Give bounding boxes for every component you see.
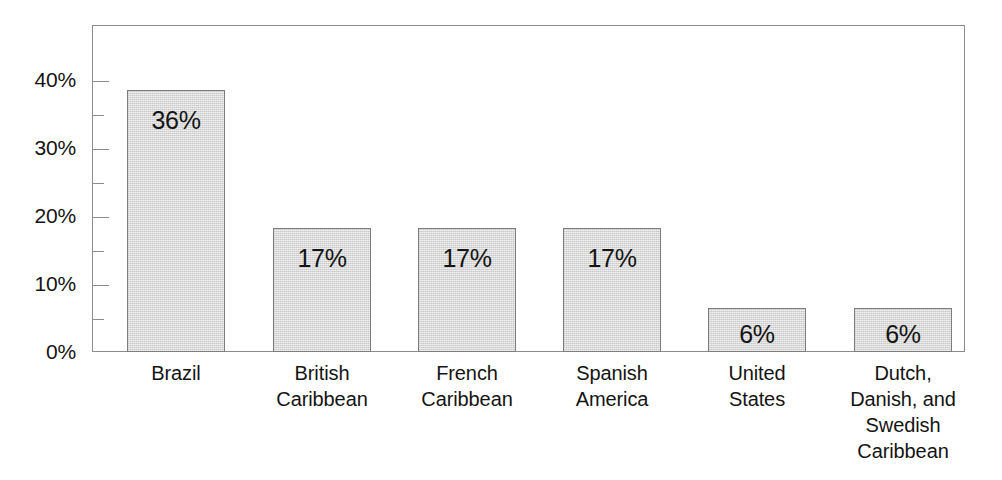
y-axis-tick-label: 20% bbox=[20, 205, 76, 226]
category-label-line: Swedish bbox=[828, 412, 978, 438]
y-axis-tick-label: 40% bbox=[20, 69, 76, 90]
x-axis-category-label: BritishCaribbean bbox=[247, 360, 397, 412]
category-label-line: Brazil bbox=[101, 360, 251, 386]
bar-value-label: 36% bbox=[127, 108, 225, 133]
x-axis-category-label: SpanishAmerica bbox=[537, 360, 687, 412]
y-axis-tick-label: 30% bbox=[20, 137, 76, 158]
x-axis-category-label: Brazil bbox=[101, 360, 251, 386]
bars-layer: 36%17%17%17%6%6% bbox=[92, 25, 965, 352]
category-label-line: Danish, and bbox=[828, 386, 978, 412]
category-label-line: British bbox=[247, 360, 397, 386]
y-axis-tick-label: 0% bbox=[20, 341, 76, 362]
category-label-line: French bbox=[392, 360, 542, 386]
y-axis-tick-label: 10% bbox=[20, 273, 76, 294]
category-label-line: Caribbean bbox=[828, 438, 978, 464]
bar-value-label: 17% bbox=[273, 246, 371, 271]
bar-value-label: 6% bbox=[854, 322, 952, 347]
bar-chart: 0%10%20%30%40% 36%17%17%17%6%6% BrazilBr… bbox=[0, 0, 1002, 480]
category-label-line: Caribbean bbox=[392, 386, 542, 412]
y-axis-tick-labels: 0%10%20%30%40% bbox=[18, 0, 76, 480]
category-label-line: Dutch, bbox=[828, 360, 978, 386]
x-axis-category-label: FrenchCaribbean bbox=[392, 360, 542, 412]
category-label-line: Spanish bbox=[537, 360, 687, 386]
bar-value-label: 17% bbox=[418, 246, 516, 271]
x-axis-category-labels: BrazilBritishCaribbeanFrenchCaribbeanSpa… bbox=[92, 360, 965, 478]
x-axis-category-label: UnitedStates bbox=[682, 360, 832, 412]
bar-value-label: 17% bbox=[563, 246, 661, 271]
bar-value-label: 6% bbox=[708, 322, 806, 347]
category-label-line: United bbox=[682, 360, 832, 386]
x-axis-category-label: Dutch,Danish, andSwedishCaribbean bbox=[828, 360, 978, 464]
category-label-line: Caribbean bbox=[247, 386, 397, 412]
category-label-line: States bbox=[682, 386, 832, 412]
category-label-line: America bbox=[537, 386, 687, 412]
